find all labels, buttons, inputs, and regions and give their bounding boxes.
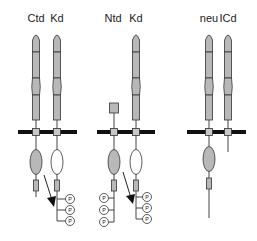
svg-text:P: P — [68, 207, 72, 213]
intracellular-ntd — [108, 135, 120, 222]
extracellular-domain-icd — [224, 35, 233, 152]
label-neu: neu — [200, 12, 218, 24]
kinase-dead-domain — [130, 150, 142, 175]
label-kd-2: Kd — [129, 12, 142, 24]
svg-text:P: P — [68, 196, 72, 202]
svg-text:P: P — [145, 194, 149, 200]
arrow-1 — [44, 175, 52, 200]
label-icd: ICd — [219, 12, 236, 24]
intracellular-ctd — [30, 135, 42, 197]
svg-text:P: P — [145, 205, 149, 211]
arrowhead-2 — [126, 194, 135, 204]
phospho-cluster-1: P P P — [66, 195, 75, 226]
phospho-cluster-2: P P P — [100, 194, 109, 227]
label-ntd: Ntd — [104, 12, 121, 24]
extracellular-domain-kd-2 — [132, 35, 141, 136]
svg-text:P: P — [102, 219, 106, 225]
arrow-2 — [123, 172, 131, 198]
phospho-cluster-3: P P P — [143, 193, 152, 224]
receptor-diagram: Ctd Kd Ntd Kd neu ICd — [0, 0, 257, 241]
kinase-dead-domain — [51, 150, 63, 175]
intracellular-kd-1 — [51, 135, 66, 221]
label-kd-1: Kd — [50, 12, 63, 24]
extracellular-domain-ntd — [110, 103, 119, 136]
extracellular-domain-ctd — [32, 35, 41, 136]
kinase-domain — [203, 147, 215, 172]
kinase-domain — [108, 150, 120, 175]
extracellular-domain-neu — [205, 35, 214, 136]
kinase-domain — [30, 150, 42, 175]
svg-text:P: P — [102, 195, 106, 201]
intracellular-kd-2 — [130, 135, 143, 219]
svg-text:P: P — [145, 216, 149, 222]
svg-text:P: P — [102, 207, 106, 213]
svg-text:P: P — [68, 218, 72, 224]
intracellular-neu — [203, 135, 215, 218]
extracellular-domain-kd-1 — [53, 35, 62, 136]
label-ctd: Ctd — [27, 12, 44, 24]
arrowhead-1 — [47, 196, 56, 207]
